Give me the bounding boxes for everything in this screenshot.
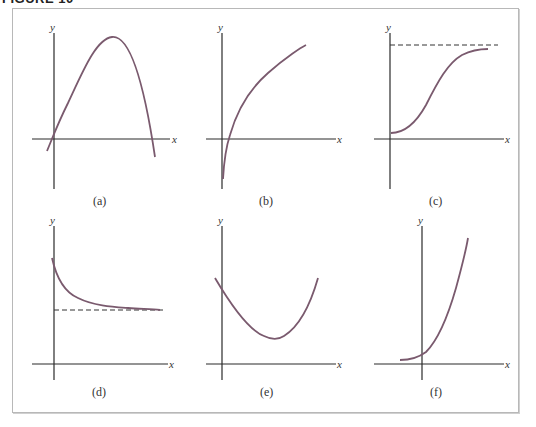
y-axis-label: y — [385, 21, 391, 33]
x-axis-label: x — [336, 358, 342, 370]
y-axis-label: y — [217, 21, 223, 33]
caption-f: (f) — [430, 385, 442, 399]
grid — [38, 236, 166, 380]
grid — [374, 236, 502, 380]
curve-e — [215, 278, 318, 339]
panel-f: y x (f) — [374, 214, 510, 399]
x-axis-label: x — [168, 358, 174, 370]
y-axis-label: y — [49, 21, 55, 33]
y-axis-label: y — [417, 214, 423, 226]
grid — [374, 43, 502, 187]
caption-a: (a) — [93, 194, 106, 208]
curve-c — [391, 49, 488, 133]
panel-c: y x (c) — [374, 21, 510, 208]
grid — [206, 236, 334, 380]
panel-e: y x (e) — [206, 214, 342, 399]
x-axis-label: x — [171, 133, 177, 145]
x-axis-label: x — [504, 358, 510, 370]
caption-b: (b) — [259, 194, 273, 208]
panel-b: y x (b) — [206, 21, 342, 208]
panel-d: y x (d) — [32, 214, 174, 399]
panel-a: y x (a) — [32, 21, 177, 208]
curve-b — [223, 45, 306, 179]
caption-e: (e) — [260, 385, 273, 399]
y-axis-label: y — [217, 214, 223, 226]
grid — [206, 43, 334, 187]
curve-d — [52, 258, 160, 310]
figure-canvas: y x (a) y x (b) y x (c) y x (d) — [0, 0, 536, 427]
x-axis-label: x — [336, 133, 342, 145]
curve-f — [400, 238, 468, 360]
grid — [38, 43, 166, 187]
x-axis-label: x — [504, 133, 510, 145]
caption-c: (c) — [429, 194, 442, 208]
y-axis-label: y — [49, 214, 55, 226]
caption-d: (d) — [92, 385, 106, 399]
